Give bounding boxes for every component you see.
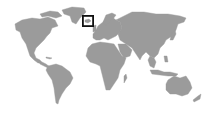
continent-australia [166,76,192,96]
island-iceland [85,19,91,23]
island-madagascar [124,74,127,83]
continent-south-america [46,64,73,104]
continent-north-america [15,17,58,63]
world-map-svg [0,0,210,115]
philippines [164,56,168,62]
southeast-asia [148,56,156,68]
world-locator-map: Iceland / North Atlantic [0,0,210,115]
caribbean-islands [46,57,52,59]
island-new-zealand [193,94,201,102]
indonesia [150,70,178,76]
arctic-islands [40,11,62,18]
